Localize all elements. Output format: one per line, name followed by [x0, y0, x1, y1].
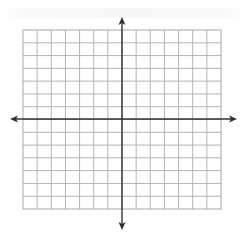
- axes: [10, 17, 237, 230]
- coordinate-plane: [0, 0, 250, 234]
